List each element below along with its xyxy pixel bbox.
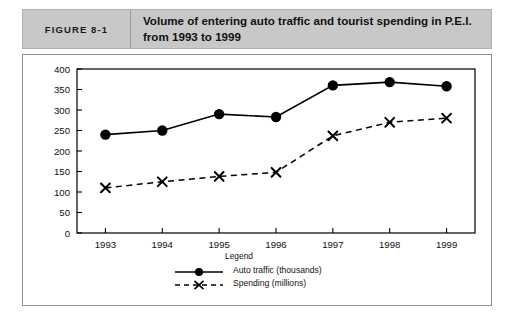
legend-title: Legend <box>225 251 433 261</box>
data-point-marker <box>328 80 338 90</box>
y-axis-tick-label: 0 <box>65 228 70 239</box>
figure-number-cell: FIGURE 8-1 <box>23 10 131 48</box>
data-point-marker <box>157 125 167 135</box>
y-axis-tick-layer: 050100150200250300350400 <box>54 64 82 239</box>
data-point-marker <box>214 109 224 119</box>
y-axis-tick-label: 50 <box>59 207 70 218</box>
x-axis-tick-label: 1996 <box>265 239 286 250</box>
data-point-marker <box>441 81 451 91</box>
x-axis-tick-label: 1993 <box>95 239 116 250</box>
data-point-marker <box>100 129 110 139</box>
x-axis-tick-label: 1998 <box>379 239 400 250</box>
figure-caption-header: FIGURE 8-1 Volume of entering auto traff… <box>22 9 492 49</box>
legend-label-auto-traffic: Auto traffic (thousands) <box>225 265 322 275</box>
figure-title-text: Volume of entering auto traffic and tour… <box>143 13 483 45</box>
y-axis-tick-label: 100 <box>54 187 70 198</box>
x-axis-tick-label: 1997 <box>322 239 343 250</box>
chart-frame: 050100150200250300350400 199319941995199… <box>22 54 492 306</box>
y-axis-tick-label: 400 <box>54 64 70 75</box>
y-axis-tick-label: 250 <box>54 125 70 136</box>
legend-item-auto-traffic: Auto traffic (thousands) <box>173 263 433 276</box>
figure-title-cell: Volume of entering auto traffic and tour… <box>131 10 491 48</box>
y-axis-tick-label: 150 <box>54 166 70 177</box>
x-axis-tick-label: 1999 <box>436 239 457 250</box>
legend-swatch-solid-circle <box>173 264 225 276</box>
chart-legend: Legend Auto traffic (thousands) <box>173 251 433 289</box>
legend-item-spending: Spending (millions) <box>173 276 433 289</box>
legend-swatch-dashed-cross <box>173 277 225 289</box>
y-axis-tick-label: 350 <box>54 84 70 95</box>
axis-layer <box>77 69 475 233</box>
data-point-marker <box>271 112 281 122</box>
legend-label-spending: Spending (millions) <box>225 278 306 288</box>
y-axis-tick-label: 300 <box>54 105 70 116</box>
data-point-marker <box>385 77 395 87</box>
x-axis-tick-label: 1994 <box>152 239 174 250</box>
y-axis-tick-label: 200 <box>54 146 70 157</box>
x-axis-tick-label: 1995 <box>208 239 229 250</box>
figure-number-label: FIGURE 8-1 <box>45 24 108 35</box>
